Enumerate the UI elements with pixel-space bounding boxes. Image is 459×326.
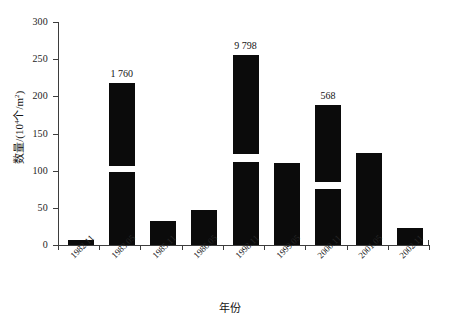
x-tick-3	[182, 245, 183, 250]
bar-value-label-1998.11: 9 798	[206, 41, 286, 51]
y-tick-100	[53, 171, 59, 172]
bar-chart: 050100150200250300 1 7609 798568 1982.11…	[0, 0, 459, 326]
y-tick-150	[53, 134, 59, 135]
y-tick-50	[53, 208, 59, 209]
x-tick-2	[140, 245, 141, 250]
x-tick-9	[429, 245, 430, 250]
bar-axis-break-1983.05	[108, 166, 136, 172]
y-tick-200	[53, 96, 59, 97]
bar-1983.05	[109, 83, 135, 245]
y-axis-title-p1: 数量/(10	[13, 124, 25, 164]
x-tick-0	[58, 245, 59, 250]
bar-axis-break-2000.11	[314, 182, 342, 189]
y-axis-title: 数量/(104个/m2)	[11, 67, 26, 187]
y-axis-title-p3: )	[13, 91, 25, 95]
y-tick-label-250: 250	[0, 54, 48, 64]
bar-value-label-1983.05: 1 760	[82, 69, 162, 79]
x-category-label-1982.11: 1982.11	[69, 234, 96, 261]
bar-value-label-2000.11: 568	[288, 91, 368, 101]
x-axis-title: 年份	[0, 302, 459, 314]
y-axis-title-exp2: 2	[13, 94, 21, 98]
x-tick-6	[305, 245, 306, 250]
y-tick-300	[53, 22, 59, 23]
x-tick-5	[264, 245, 265, 250]
bar-2001.05	[356, 153, 382, 245]
x-tick-1	[99, 245, 100, 250]
x-tick-8	[388, 245, 389, 250]
y-tick-250	[53, 59, 59, 60]
x-tick-4	[223, 245, 224, 250]
y-tick-label-0: 0	[0, 240, 48, 250]
x-tick-7	[347, 245, 348, 250]
bar-axis-break-1998.11	[232, 154, 260, 161]
y-axis-title-exp1: 4	[13, 121, 21, 125]
y-tick-label-300: 300	[0, 17, 48, 27]
bar-1998.11	[233, 55, 259, 245]
bar-2000.11	[315, 105, 341, 245]
y-tick-label-50: 50	[0, 203, 48, 213]
y-axis-title-p2: 个/m	[13, 98, 25, 121]
